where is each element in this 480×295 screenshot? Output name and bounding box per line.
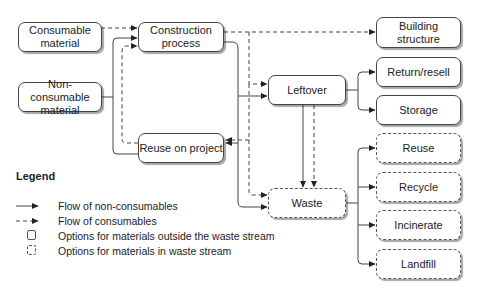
node-label: Return/resell bbox=[387, 66, 449, 79]
node-label: Waste bbox=[292, 197, 323, 210]
node-incinerate: Incinerate bbox=[376, 210, 461, 240]
legend-label: Options for materials in waste stream bbox=[58, 245, 231, 257]
legend-item-non-consumables: Flow of non-consumables bbox=[16, 200, 178, 212]
node-waste: Waste bbox=[268, 188, 346, 218]
node-construction-process: Construction process bbox=[138, 22, 224, 52]
node-label: Recycle bbox=[399, 181, 438, 194]
node-label: Incinerate bbox=[394, 219, 442, 232]
node-nonconsumable-material: Non-consumable material bbox=[18, 82, 102, 112]
legend-label: Flow of consumables bbox=[58, 215, 157, 227]
node-reuse: Reuse bbox=[376, 133, 461, 163]
legend-item-consumables: Flow of consumables bbox=[16, 215, 157, 227]
legend-item-outside-waste: Options for materials outside the waste … bbox=[16, 230, 275, 242]
node-label: Construction process bbox=[150, 24, 212, 50]
edge-construction-solid-trunk bbox=[224, 42, 267, 96]
edge-nonconsumable-to-construction bbox=[101, 38, 137, 97]
node-label: Reuse bbox=[403, 142, 435, 155]
node-label: Non-consumable material bbox=[19, 78, 101, 117]
node-label: Consumable material bbox=[29, 24, 91, 50]
edge-reuse-on-project-to-construction-solid bbox=[113, 97, 138, 154]
node-leftover: Leftover bbox=[268, 75, 346, 105]
node-label: Storage bbox=[399, 104, 438, 117]
node-consumable-material: Consumable material bbox=[18, 22, 102, 52]
node-reuse-on-project: Reuse on project bbox=[138, 133, 224, 163]
legend-label: Flow of non-consumables bbox=[58, 200, 178, 212]
legend-label: Options for materials outside the waste … bbox=[58, 230, 275, 242]
solid-box-icon bbox=[27, 230, 36, 240]
dashed-box-icon bbox=[27, 245, 36, 255]
node-landfill: Landfill bbox=[376, 249, 461, 279]
node-label: Reuse on project bbox=[139, 142, 222, 155]
node-label: Leftover bbox=[287, 84, 327, 97]
legend-item-in-waste: Options for materials in waste stream bbox=[16, 245, 231, 257]
node-recycle: Recycle bbox=[376, 172, 461, 202]
node-building-structure: Building structure bbox=[376, 17, 461, 48]
edge-reuse-on-project-to-construction-dashed bbox=[122, 46, 138, 143]
edge-leftover-to-storage bbox=[358, 90, 375, 110]
edge-leftover-to-return bbox=[346, 72, 375, 90]
node-label: Building structure bbox=[397, 20, 440, 46]
node-label: Landfill bbox=[401, 258, 436, 271]
legend-title: Legend bbox=[16, 170, 55, 182]
edge-construction-dashed-trunk bbox=[249, 32, 267, 84]
node-return-resell: Return/resell bbox=[376, 57, 461, 87]
node-storage: Storage bbox=[376, 95, 461, 125]
